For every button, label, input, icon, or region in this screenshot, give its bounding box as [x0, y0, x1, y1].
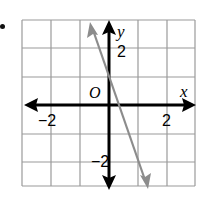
x-axis-label: x	[179, 82, 188, 101]
line-bottom-arrow-icon	[140, 173, 151, 189]
line-top-arrow-icon	[87, 22, 98, 38]
origin-label: O	[89, 84, 101, 101]
coordinate-graph: y x O 2 −2 −2 2	[0, 0, 200, 197]
x-tick-label-neg2: −2	[38, 112, 56, 129]
y-tick-label-neg2: −2	[91, 153, 109, 170]
x-tick-label-2: 2	[162, 112, 171, 129]
y-tick-label-2: 2	[117, 43, 126, 60]
y-axis-label: y	[115, 22, 125, 41]
x-axis-left-arrow-icon	[24, 98, 38, 112]
